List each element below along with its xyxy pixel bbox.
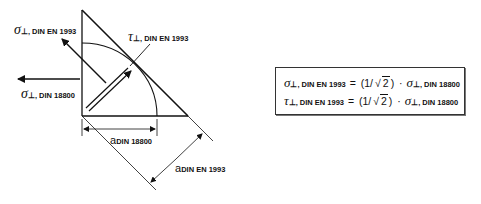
tau-leader-line xyxy=(130,44,150,66)
sigma-din-18800-label: σ⊥, DIN 18800 xyxy=(21,85,75,101)
formula-row-tau: τ⊥, DIN EN 1993 = (1/√2) · σ⊥, DIN 18800 xyxy=(284,92,464,110)
formula-row-sigma: σ⊥, DIN EN 1993 = (1/√2) · σ⊥, DIN 18800 xyxy=(284,74,464,92)
a-din-18800-label: aDIN 18800 xyxy=(110,131,152,147)
a-din-en-1993-dimension xyxy=(82,116,213,190)
sigma-en-arrow xyxy=(62,39,106,83)
sqrt-symbol: √2 xyxy=(372,92,388,111)
weld-triangle xyxy=(82,10,188,116)
sigma-din-en-1993-label: σ⊥, DIN EN 1993 xyxy=(14,21,76,37)
conversion-formula-box: σ⊥, DIN EN 1993 = (1/√2) · σ⊥, DIN 18800… xyxy=(275,67,465,115)
tau-din-en-1993-label: τ⊥, DIN EN 1993 xyxy=(128,28,188,44)
throat-arc xyxy=(82,43,157,116)
tau-en-arrow xyxy=(86,68,131,111)
a-din-en-1993-label: aDIN EN 1993 xyxy=(175,159,225,175)
sqrt-symbol: √2 xyxy=(374,74,390,93)
